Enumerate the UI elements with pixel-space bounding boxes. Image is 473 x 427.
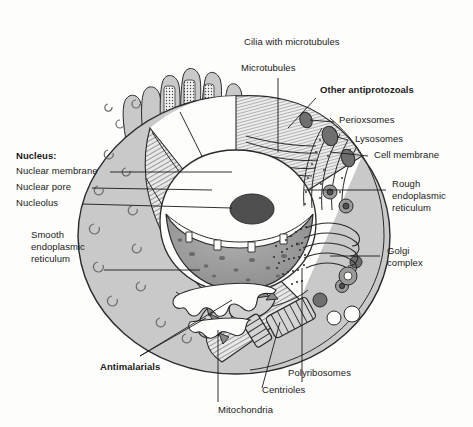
golgi-vesicle bbox=[339, 267, 357, 285]
label-nucleus-heading: Nucleus: bbox=[16, 150, 57, 162]
label-lysosomes: Lysosomes bbox=[355, 133, 403, 145]
label-centrioles: Centrioles bbox=[262, 384, 305, 396]
label-nuclear-pore: Nuclear pore bbox=[16, 181, 71, 193]
label-rough-er-line-1: Rough bbox=[392, 178, 420, 190]
nucleolus-body bbox=[230, 194, 274, 224]
label-golgi-line-2: complex bbox=[387, 257, 423, 269]
label-microtubules: Microtubules bbox=[241, 62, 295, 74]
label-rough-er-line-3: reticulum bbox=[392, 202, 431, 214]
label-smooth-er-line-1: Smooth bbox=[31, 229, 64, 241]
cell-diagram-figure: Cilia with microtubules Microtubules Oth… bbox=[0, 0, 473, 427]
label-mitochondria: Mitochondria bbox=[218, 404, 273, 416]
label-nucleolus: Nucleolus bbox=[16, 197, 58, 209]
label-other-antiprotozoals: Other antiprotozoals bbox=[320, 84, 414, 96]
label-smooth-er-line-2: endoplasmic bbox=[31, 241, 85, 253]
label-nuclear-membrane: Nuclear membrane bbox=[16, 165, 98, 177]
label-cilia-with-microtubules: Cilia with microtubules bbox=[244, 36, 340, 48]
label-rough-er-line-2: endoplasmic bbox=[392, 190, 446, 202]
label-cell-membrane: Cell membrane bbox=[374, 149, 439, 161]
cell-illustration bbox=[0, 0, 473, 427]
label-smooth-er-line-3: reticulum bbox=[31, 253, 70, 265]
label-antimalarials: Antimalarials bbox=[100, 361, 160, 373]
label-perioxsomes: Perioxsomes bbox=[339, 114, 394, 126]
label-golgi-line-1: Golgi bbox=[387, 245, 409, 257]
label-polyribosomes: Polyribosomes bbox=[288, 367, 351, 379]
